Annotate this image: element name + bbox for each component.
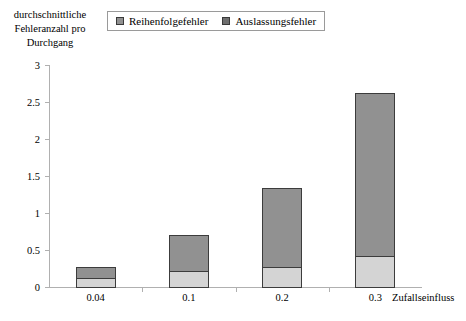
legend-swatch-icon: [116, 17, 124, 25]
chart-legend: Reihenfolgefehler Auslassungsfehler: [107, 11, 325, 31]
y-axis-tick: [45, 176, 50, 177]
x-axis-tick-label: 0.2: [276, 292, 289, 304]
legend-swatch-icon: [222, 17, 230, 25]
x-axis-title: Zufallseinfluss: [392, 292, 454, 304]
y-axis-tick: [45, 102, 50, 103]
bar-segment[interactable]: [262, 188, 302, 269]
y-axis-tick: [45, 139, 50, 140]
bar-segment[interactable]: [76, 278, 116, 288]
x-axis-tick-labels: 0.040.10.20.3: [49, 292, 422, 308]
bar-stack[interactable]: [169, 235, 209, 287]
y-axis-tick-label: 2: [35, 134, 40, 145]
bar-segment[interactable]: [262, 267, 302, 288]
y-axis-tick-label: 0: [35, 282, 40, 293]
y-axis-tick-label: 1: [35, 208, 40, 219]
bar-segment[interactable]: [169, 271, 209, 288]
x-axis-tick-label: 0.04: [86, 292, 104, 304]
bar-segment[interactable]: [355, 93, 395, 257]
legend-item-label: Reihenfolgefehler: [129, 15, 208, 27]
plot-area: [49, 65, 422, 287]
y-axis-tick-label: 0.5: [27, 245, 40, 256]
y-axis-tick: [45, 213, 50, 214]
bar-stack[interactable]: [262, 188, 302, 287]
chart-container: durchschnittliche Fehleranzahl pro Durch…: [0, 0, 466, 321]
y-axis-tick-label: 3: [35, 60, 40, 71]
x-axis-tick-label: 0.1: [182, 292, 195, 304]
bar-segment[interactable]: [169, 235, 209, 272]
x-axis-tick-label: 0.3: [369, 292, 382, 304]
y-axis-tick-label: 1.5: [27, 171, 40, 182]
y-axis-tick-labels: 00.511.522.53: [0, 65, 45, 287]
legend-item-reihenfolgefehler[interactable]: Reihenfolgefehler: [116, 15, 208, 27]
y-axis-tick-label: 2.5: [27, 97, 40, 108]
legend-item-label: Auslassungsfehler: [235, 15, 316, 27]
y-axis-tick: [45, 65, 50, 66]
bar-segment[interactable]: [355, 256, 395, 288]
bar-stack[interactable]: [76, 267, 116, 287]
bar-stack[interactable]: [355, 93, 395, 287]
legend-item-auslassungsfehler[interactable]: Auslassungsfehler: [222, 15, 316, 27]
y-axis-tick: [45, 287, 50, 288]
y-axis-title: durchschnittliche Fehleranzahl pro Durch…: [0, 8, 100, 50]
y-axis-tick: [45, 250, 50, 251]
